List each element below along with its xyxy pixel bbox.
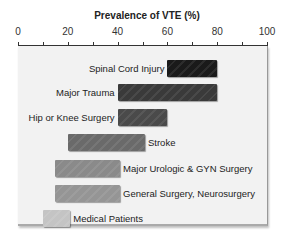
range-bar xyxy=(55,185,120,202)
chart-title: Prevalence of VTE (%) xyxy=(0,10,294,21)
bar-label: Spinal Cord Injury xyxy=(89,60,165,77)
x-tick-label: 100 xyxy=(259,26,276,37)
x-tick-label: 0 xyxy=(15,26,21,37)
range-bar xyxy=(43,210,70,227)
range-bar xyxy=(167,60,217,77)
range-bar xyxy=(118,84,218,101)
range-bar xyxy=(55,160,120,177)
x-tick-label: 40 xyxy=(112,26,123,37)
x-tick-label: 80 xyxy=(212,26,223,37)
range-bar xyxy=(118,109,168,126)
bar-label: Major Urologic & GYN Surgery xyxy=(123,160,252,177)
bar-label: Hip or Knee Surgery xyxy=(29,109,115,126)
bar-label: Medical Patients xyxy=(73,210,143,227)
bar-label: Major Trauma xyxy=(56,84,115,101)
plot-area: Spinal Cord InjuryMajor TraumaHip or Kne… xyxy=(18,46,268,226)
x-tick-label: 20 xyxy=(62,26,73,37)
x-tick-label: 60 xyxy=(162,26,173,37)
bar-label: Stroke xyxy=(148,134,175,151)
range-bar xyxy=(68,134,145,151)
bar-label: General Surgery, Neurosurgery xyxy=(123,185,255,202)
